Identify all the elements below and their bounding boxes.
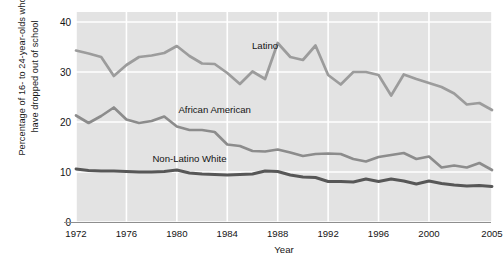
x-tick-label: 2005 xyxy=(481,228,502,239)
series-label: Non-Latino White xyxy=(152,153,226,164)
series-label: African American xyxy=(178,104,251,115)
y-tick-label: 30 xyxy=(60,67,71,78)
plot-area: 010203040 197219761980198419881992199620… xyxy=(76,12,492,222)
series-label: Latino xyxy=(252,40,278,51)
series-line xyxy=(76,108,492,171)
x-axis-line xyxy=(64,222,491,223)
y-tick-label: 10 xyxy=(60,167,71,178)
x-tick-label: 1980 xyxy=(166,228,187,239)
y-axis-label-line-2: have dropped out of school xyxy=(28,0,41,177)
x-tick-label: 1992 xyxy=(317,228,338,239)
x-axis-label: Year xyxy=(274,244,293,255)
x-tick-label: 1976 xyxy=(116,228,137,239)
dropout-rate-line-chart: Percentage of 16- to 24-year-olds who ha… xyxy=(0,0,503,262)
x-tick-label: 1996 xyxy=(368,228,389,239)
y-tick-label: 20 xyxy=(60,117,71,128)
x-tick-label: 1972 xyxy=(65,228,86,239)
y-axis-label: Percentage of 16- to 24-year-olds who ha… xyxy=(16,0,41,177)
series-line xyxy=(76,43,492,110)
series-line xyxy=(76,169,492,187)
x-tick-label: 1988 xyxy=(267,228,288,239)
y-axis-label-line-1: Percentage of 16- to 24-year-olds who xyxy=(16,0,29,177)
x-tick-label: 2000 xyxy=(418,228,439,239)
x-tick-label: 1984 xyxy=(217,228,238,239)
series-lines xyxy=(76,12,492,222)
y-tick-label: 40 xyxy=(60,17,71,28)
